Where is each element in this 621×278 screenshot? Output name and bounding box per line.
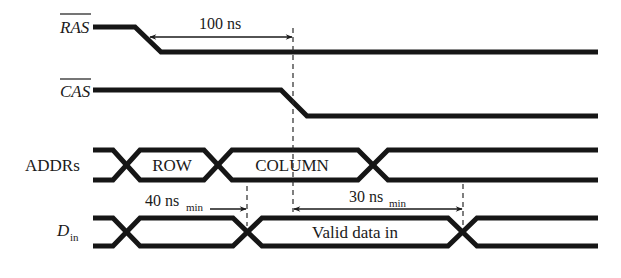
bus-value-row: ROW bbox=[152, 156, 193, 175]
annotation-30ns: 30 ns min bbox=[349, 188, 407, 209]
waveform-ras bbox=[93, 27, 598, 52]
svg-text:RAS: RAS bbox=[59, 18, 90, 37]
signal-label-cas: CAS bbox=[60, 79, 91, 101]
svg-text:D: D bbox=[56, 221, 70, 240]
svg-text:CAS: CAS bbox=[60, 82, 91, 101]
bus-value-valid-data: Valid data in bbox=[312, 223, 398, 242]
svg-text:in: in bbox=[70, 231, 79, 243]
annotation-40ns: 40 ns min bbox=[145, 192, 204, 213]
svg-text:40 ns: 40 ns bbox=[145, 192, 179, 209]
svg-text:30 ns: 30 ns bbox=[349, 188, 383, 205]
signal-label-addrs: ADDRs bbox=[25, 156, 80, 175]
signal-label-ras: RAS bbox=[59, 14, 91, 37]
annotation-100ns: 100 ns bbox=[199, 15, 241, 32]
waveform-cas bbox=[93, 90, 598, 116]
svg-text:min: min bbox=[389, 197, 407, 209]
bus-value-column: COLUMN bbox=[255, 156, 329, 175]
timing-diagram: RAS CAS ADDRs D in ROW COLUMN Valid data… bbox=[0, 0, 621, 278]
signal-label-din: D in bbox=[56, 221, 79, 243]
svg-text:min: min bbox=[186, 201, 204, 213]
